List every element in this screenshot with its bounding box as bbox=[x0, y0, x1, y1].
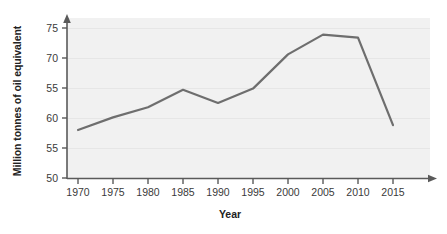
y-tick-label: 55 bbox=[28, 143, 58, 153]
y-tick-label: 50 bbox=[28, 173, 58, 183]
gridline bbox=[67, 28, 430, 29]
plot-area bbox=[67, 18, 430, 178]
x-axis-ticks bbox=[78, 179, 393, 185]
y-axis-title: Million tonnes of oil equivalent bbox=[9, 6, 25, 196]
y-tick-label: 60 bbox=[28, 113, 58, 123]
gridline bbox=[67, 118, 430, 119]
y-tick-label: 75 bbox=[28, 23, 58, 33]
x-tick-label: 2015 bbox=[371, 186, 415, 198]
line-chart: Million tonnes of oil equivalent bbox=[0, 0, 447, 234]
y-tick-label: 70 bbox=[28, 53, 58, 63]
gridline bbox=[67, 58, 430, 59]
gridline bbox=[67, 148, 430, 149]
y-tick-label: 55 bbox=[28, 83, 58, 93]
x-axis-title: Year bbox=[60, 208, 400, 220]
gridline bbox=[67, 88, 430, 89]
